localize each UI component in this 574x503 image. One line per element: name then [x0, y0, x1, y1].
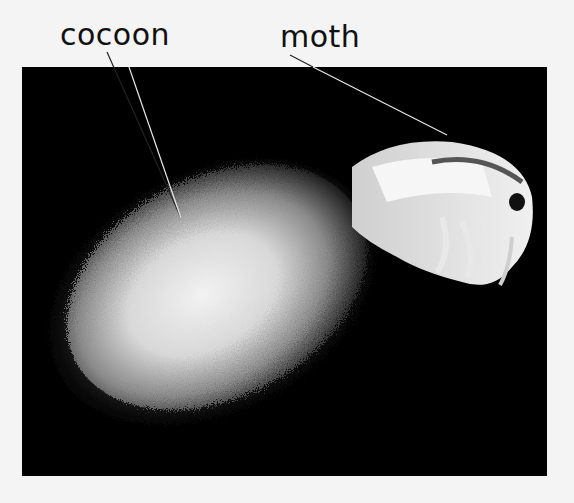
- cocoon-label: cocoon: [60, 20, 170, 50]
- photo-cocoon-moth: [22, 67, 547, 476]
- moth-leader-line-outside: [290, 55, 313, 67]
- moth-label: moth: [280, 22, 360, 52]
- cocoon-moth-illustration: [22, 67, 547, 476]
